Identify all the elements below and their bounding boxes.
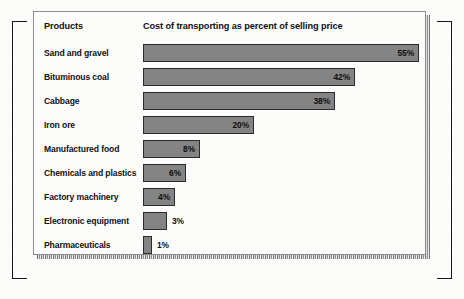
row-label: Cabbage — [44, 96, 79, 106]
bar-rows: Sand and gravel55%Bituminous coal42%Cabb… — [34, 43, 425, 259]
table-row: Manufactured food8% — [34, 139, 425, 163]
table-row: Electronic equipment3% — [34, 211, 425, 235]
bar-track: 55% — [143, 44, 423, 62]
bar-value-label: 6% — [169, 168, 181, 178]
bar — [143, 44, 419, 62]
bar-track: 42% — [143, 68, 423, 86]
table-row: Iron ore20% — [34, 115, 425, 139]
bar-track: 38% — [143, 92, 423, 110]
bar-value-label: 3% — [172, 216, 184, 226]
bracket-left — [12, 21, 27, 279]
bar-value-label: 55% — [398, 48, 414, 58]
chart-header: Products Cost of transporting as percent… — [34, 21, 425, 40]
table-row: Cabbage38% — [34, 91, 425, 115]
bracket-right — [437, 21, 452, 279]
bar-value-label: 4% — [158, 192, 170, 202]
column-header-measure: Cost of transporting as percent of selli… — [143, 21, 342, 31]
row-label: Electronic equipment — [44, 216, 129, 226]
bar-value-label: 1% — [157, 240, 169, 250]
bar-value-label: 42% — [334, 72, 350, 82]
bar-track: 8% — [143, 140, 423, 158]
bar-value-label: 8% — [183, 144, 195, 154]
row-label: Iron ore — [44, 120, 75, 130]
row-label: Chemicals and plastics — [44, 168, 136, 178]
bar-track: 4% — [143, 188, 423, 206]
column-header-products: Products — [44, 21, 83, 31]
row-label: Sand and gravel — [44, 48, 109, 58]
table-row: Pharmaceuticals1% — [34, 235, 425, 259]
bar-track: 20% — [143, 116, 423, 134]
bar — [143, 212, 167, 230]
bar-value-label: 20% — [233, 120, 249, 130]
bar — [143, 68, 355, 86]
table-row: Factory machinery4% — [34, 187, 425, 211]
table-row: Chemicals and plastics6% — [34, 163, 425, 187]
row-label: Bituminous coal — [44, 72, 109, 82]
row-label: Factory machinery — [44, 192, 118, 202]
chart-card: Products Cost of transporting as percent… — [33, 11, 426, 255]
bar — [143, 236, 152, 254]
bar-value-label: 38% — [314, 96, 330, 106]
row-label: Pharmaceuticals — [44, 240, 111, 250]
bar-track: 3% — [143, 212, 423, 230]
table-row: Sand and gravel55% — [34, 43, 425, 67]
bar-track: 1% — [143, 236, 423, 254]
bar-track: 6% — [143, 164, 423, 182]
chart-inner: Products Cost of transporting as percent… — [34, 12, 425, 254]
table-row: Bituminous coal42% — [34, 67, 425, 91]
bar — [143, 92, 335, 110]
row-label: Manufactured food — [44, 144, 119, 154]
